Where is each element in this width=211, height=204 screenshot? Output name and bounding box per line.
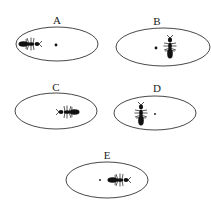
ant-icon bbox=[164, 35, 177, 59]
ant-icon bbox=[19, 38, 43, 51]
arena-ellipse bbox=[116, 28, 210, 66]
panel-e: E bbox=[66, 149, 148, 198]
center-dot bbox=[99, 179, 101, 181]
center-dot bbox=[154, 113, 156, 115]
panel-label: A bbox=[53, 14, 61, 26]
arena-ellipse bbox=[114, 96, 196, 130]
panel-b: B bbox=[116, 15, 210, 66]
panel-c: C bbox=[15, 81, 97, 129]
ant-icon bbox=[56, 106, 80, 119]
panel-label: B bbox=[153, 15, 160, 27]
panel-label: E bbox=[104, 149, 111, 161]
arena-ellipse bbox=[66, 162, 148, 198]
panel-a: A bbox=[16, 14, 98, 61]
ant-icon bbox=[108, 174, 132, 187]
panel-label: C bbox=[52, 81, 59, 93]
ant-icon bbox=[135, 102, 148, 126]
arena-ellipse bbox=[15, 93, 97, 129]
ant-position-diagram: ABCDE bbox=[0, 0, 211, 204]
center-dot bbox=[155, 47, 158, 50]
panel-label: D bbox=[153, 82, 161, 94]
panel-d: D bbox=[114, 82, 196, 130]
center-dot bbox=[55, 44, 58, 47]
